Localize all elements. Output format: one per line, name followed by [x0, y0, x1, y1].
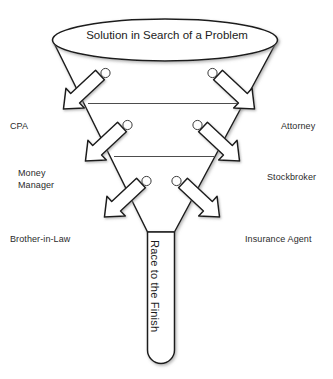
- leak-hole-bottom-right: [172, 176, 181, 185]
- diagram-canvas: Solution in Search of a Problem Race to …: [0, 0, 333, 379]
- leak-label-cpa: CPA: [10, 121, 72, 133]
- leak-label-money-manager: Money Manager: [18, 168, 82, 191]
- leak-hole-top-left: [101, 68, 110, 77]
- leak-label-insurance-agent: Insurance Agent: [245, 234, 331, 246]
- leak-label-brother-in-law: Brother-in-Law: [10, 234, 94, 246]
- leak-hole-top-right: [208, 68, 217, 77]
- leak-label-stockbroker: Stockbroker: [267, 172, 331, 184]
- leak-hole-mid-left: [123, 120, 132, 129]
- outlet-tube-label: Race to the Finish: [149, 240, 161, 358]
- leak-hole-mid-right: [193, 120, 202, 129]
- funnel-body: [53, 40, 278, 232]
- funnel-title: Solution in Search of a Problem: [78, 28, 256, 43]
- leak-label-attorney: Attorney: [281, 121, 331, 133]
- leak-hole-bottom-left: [142, 176, 151, 185]
